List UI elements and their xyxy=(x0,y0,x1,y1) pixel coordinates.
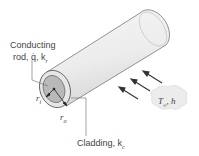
ro-label: ro xyxy=(60,112,67,126)
cylinder-diagram xyxy=(0,0,199,156)
ri-label: ri xyxy=(36,93,41,107)
rod-label-line1: Conducting xyxy=(10,40,56,50)
fluid-label: T∞, h xyxy=(158,96,176,111)
cladding-label: Cladding, kc xyxy=(77,138,125,152)
rod-label-line2: rod, q̇, kr xyxy=(13,52,48,66)
